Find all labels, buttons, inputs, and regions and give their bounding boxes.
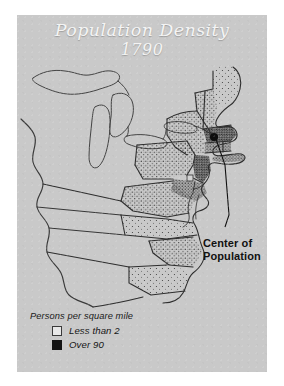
center-of-population-line1: Center of: [203, 237, 267, 250]
figure-root: Population Density 1790 Center of Popula…: [0, 0, 284, 386]
legend-swatch-light-icon: [52, 326, 62, 336]
map-panel: Population Density 1790 Center of Popula…: [17, 15, 267, 372]
legend-item-less-than-2: Less than 2: [52, 325, 190, 336]
center-of-population-label: Center of Population: [203, 237, 267, 263]
legend-label-less-than-2: Less than 2: [69, 325, 120, 336]
legend-title: Persons per square mile: [30, 311, 190, 321]
legend-swatch-dark-icon: [52, 340, 62, 350]
legend-item-over-90: Over 90: [52, 339, 190, 350]
map-inset-square: [187, 175, 193, 181]
legend-label-over-90: Over 90: [69, 339, 104, 350]
legend: Persons per square mile Less than 2 Over…: [30, 311, 190, 353]
center-of-population-line2: Population: [203, 250, 267, 263]
national-outline: [21, 119, 93, 307]
